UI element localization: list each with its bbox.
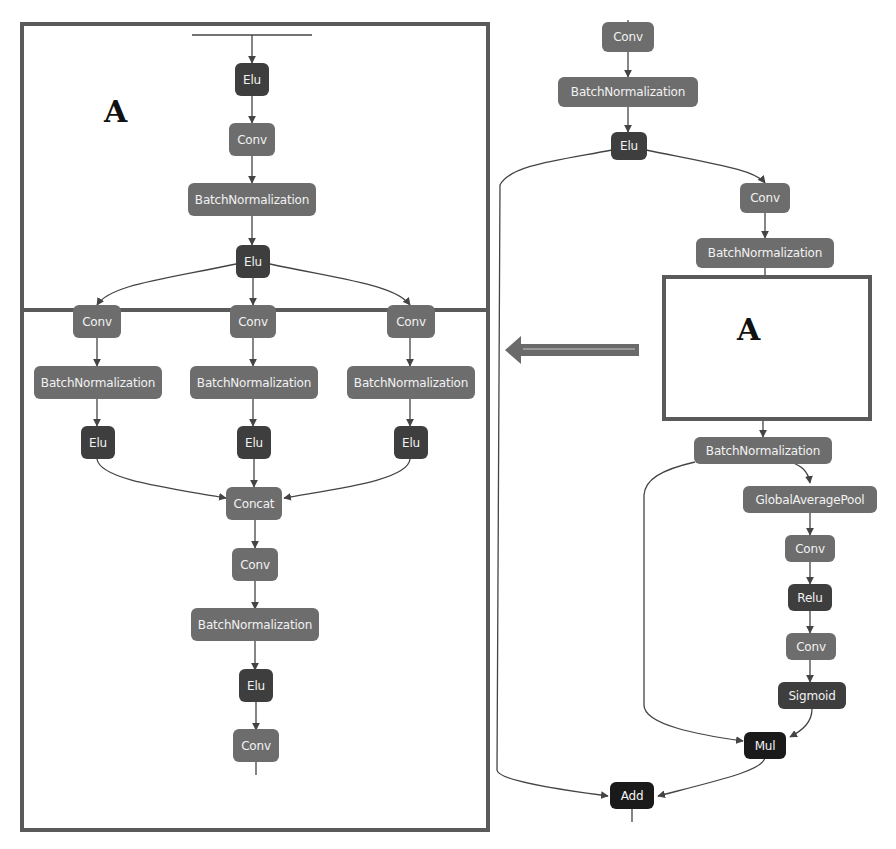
node-batchnormalization[interactable]: BatchNormalization xyxy=(694,437,832,464)
node-batchnormalization[interactable]: BatchNormalization xyxy=(696,238,834,268)
node-elu[interactable]: Elu xyxy=(237,426,271,459)
node-conv[interactable]: Conv xyxy=(387,305,435,338)
node-conv[interactable]: Conv xyxy=(785,535,835,562)
node-elu[interactable]: Elu xyxy=(81,426,115,459)
panel-a-label: A xyxy=(104,94,127,129)
node-elu[interactable]: Elu xyxy=(235,63,269,96)
node-relu[interactable]: Relu xyxy=(788,584,832,611)
node-conv[interactable]: Conv xyxy=(233,729,279,762)
node-batchnormalization[interactable]: BatchNormalization xyxy=(191,608,319,641)
node-conv[interactable]: Conv xyxy=(73,305,121,338)
node-globalaveragepool[interactable]: GlobalAveragePool xyxy=(743,486,877,513)
node-conv[interactable]: Conv xyxy=(602,22,654,52)
block-a-placeholder[interactable] xyxy=(662,275,872,421)
node-conv[interactable]: Conv xyxy=(232,548,278,581)
node-elu[interactable]: Elu xyxy=(611,132,647,160)
node-sigmoid[interactable]: Sigmoid xyxy=(778,682,846,709)
node-add[interactable]: Add xyxy=(610,782,654,809)
node-conv[interactable]: Conv xyxy=(786,633,836,660)
node-concat[interactable]: Concat xyxy=(226,487,282,520)
node-batchnormalization[interactable]: BatchNormalization xyxy=(190,366,318,399)
node-elu[interactable]: Elu xyxy=(239,669,273,702)
node-batchnormalization[interactable]: BatchNormalization xyxy=(558,77,698,107)
diagram-canvas: A Elu Conv BatchNormalization Elu Conv C… xyxy=(0,0,896,849)
node-conv[interactable]: Conv xyxy=(740,183,790,213)
node-batchnormalization[interactable]: BatchNormalization xyxy=(188,183,316,216)
node-batchnormalization[interactable]: BatchNormalization xyxy=(347,366,475,399)
node-elu[interactable]: Elu xyxy=(394,426,428,459)
node-elu[interactable]: Elu xyxy=(236,245,270,278)
node-mul[interactable]: Mul xyxy=(744,732,786,759)
block-a-label: A xyxy=(737,312,760,347)
node-batchnormalization[interactable]: BatchNormalization xyxy=(34,366,162,399)
node-conv[interactable]: Conv xyxy=(229,123,275,156)
node-conv[interactable]: Conv xyxy=(230,305,276,338)
left-arrow-icon xyxy=(505,336,640,364)
